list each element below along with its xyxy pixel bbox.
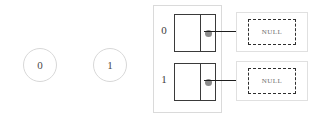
null-box-0[interactable]: NULL (248, 19, 296, 45)
circle-node-0[interactable]: 0 (23, 48, 57, 82)
null-container-1: NULL (236, 61, 308, 101)
null-box-1[interactable]: NULL (248, 68, 296, 94)
bucket-index-label-1: 1 (158, 74, 170, 85)
bucket-index-label-0: 0 (158, 25, 170, 36)
bucket-array-container: 0 1 (153, 5, 222, 113)
diagram-canvas: 0 1 0 1 (0, 0, 331, 120)
null-label-0: NULL (262, 29, 282, 36)
node-data-cell-0 (175, 15, 201, 51)
null-label-1: NULL (262, 78, 282, 85)
circle-node-0-label: 0 (37, 60, 43, 71)
node-data-cell-1 (175, 64, 201, 100)
circle-node-1-label: 1 (107, 60, 113, 71)
null-container-0: NULL (236, 12, 308, 52)
circle-node-1[interactable]: 1 (93, 48, 127, 82)
